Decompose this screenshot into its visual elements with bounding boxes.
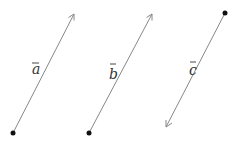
vector-a: a xyxy=(11,14,75,136)
vector-c: c xyxy=(166,11,228,128)
vector-c-label: c xyxy=(189,62,197,78)
vector-b-label: b xyxy=(109,66,118,82)
tail-point-icon xyxy=(87,131,92,136)
vector-b: b xyxy=(87,14,153,136)
vector-b-line xyxy=(89,14,152,133)
vector-a-line xyxy=(13,14,74,133)
vector-diagram: a b c xyxy=(0,0,237,141)
tail-point-icon xyxy=(11,131,16,136)
tail-point-icon xyxy=(223,11,228,16)
